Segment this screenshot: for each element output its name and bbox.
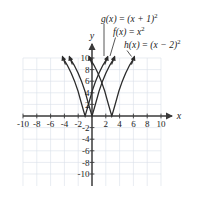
y-tick-label: -6 <box>82 146 90 156</box>
y-tick-label: 10 <box>81 53 91 63</box>
x-tick-label: 2 <box>104 119 109 129</box>
leader-line-h <box>127 51 132 57</box>
y-tick-label: 4 <box>85 88 90 98</box>
x-axis-label: x <box>176 110 182 121</box>
y-tick-label: -8 <box>82 158 90 168</box>
x-tick-label: -2 <box>74 119 82 129</box>
equation-label-f: f(x) = x2 <box>113 27 145 37</box>
equation-f-exponent: 2 <box>141 25 144 32</box>
y-tick-label: -10 <box>78 169 90 179</box>
equation-h-name: h(x) <box>124 40 140 50</box>
equation-h-exponent: 2 <box>177 38 180 45</box>
parabola-transformations-figure: -10 -8 -6 -4 -2 2 4 6 8 10 10 8 6 4 2 -2… <box>0 0 216 201</box>
x-tick-label: 8 <box>145 119 150 129</box>
leader-line-f <box>110 38 116 57</box>
equation-g-equals: = <box>119 14 124 24</box>
y-axis-label: y <box>89 30 95 41</box>
x-tick-label: 6 <box>131 119 136 129</box>
equation-f-equals: = <box>129 27 134 37</box>
graph-canvas: -10 -8 -6 -4 -2 2 4 6 8 10 10 8 6 4 2 -2… <box>0 0 216 201</box>
y-tick-label: 2 <box>85 100 90 110</box>
y-tick-label: 8 <box>85 65 90 75</box>
curve-h <box>90 59 134 116</box>
equation-label-g: g(x) = (x + 1)2 <box>101 14 158 24</box>
axes <box>23 44 172 186</box>
y-tick-label: -2 <box>82 123 90 133</box>
equation-g-exponent: 2 <box>154 12 157 19</box>
y-tick-label: 6 <box>85 76 90 86</box>
equation-f-name: f(x) <box>113 27 127 37</box>
x-tick-label: 4 <box>117 119 122 129</box>
x-tick-label: -6 <box>47 119 55 129</box>
equation-h-body: (x − 2) <box>150 40 177 50</box>
equation-g-body: (x + 1) <box>127 14 154 24</box>
x-tick-label: -10 <box>17 119 29 129</box>
equation-h-equals: = <box>142 40 147 50</box>
equation-g-name: g(x) <box>101 14 117 24</box>
x-tick-label: -4 <box>61 119 69 129</box>
x-tick-label: 10 <box>157 119 167 129</box>
y-tick-label: -4 <box>82 134 90 144</box>
equation-label-h: h(x) = (x − 2)2 <box>124 40 181 50</box>
x-tick-label: -8 <box>33 119 41 129</box>
